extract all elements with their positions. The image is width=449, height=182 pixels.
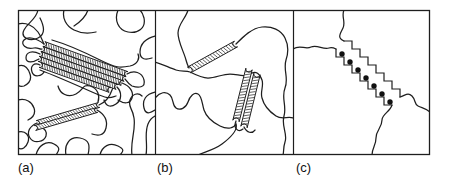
polymer-chain bbox=[178, 10, 189, 68]
polymer-chain bbox=[26, 52, 40, 62]
panel-c bbox=[293, 10, 430, 155]
polymer-chain bbox=[66, 138, 89, 155]
crystal-stem-dot bbox=[379, 91, 384, 96]
polymer-chain bbox=[36, 143, 59, 155]
polymer-chain bbox=[74, 10, 88, 26]
panel-a bbox=[18, 10, 155, 155]
polymer-chain bbox=[125, 72, 144, 87]
polymer-chain bbox=[340, 10, 344, 41]
polymer-chain bbox=[155, 62, 293, 118]
polymer-chain bbox=[116, 10, 144, 32]
crystal-stem-dot bbox=[339, 51, 344, 56]
micelle-diagram: (a) (b) (c) bbox=[0, 0, 449, 182]
polymer-chain bbox=[18, 65, 31, 86]
crystallite-bundles-b bbox=[187, 41, 260, 128]
polymer-chain bbox=[18, 132, 29, 149]
crystal-stem-dots bbox=[339, 51, 392, 104]
crystal-stem-dot bbox=[347, 59, 352, 64]
polymer-chain bbox=[129, 94, 142, 155]
polymer-chain bbox=[400, 94, 430, 112]
polymer-chain bbox=[155, 93, 236, 155]
crystal-stem-dot bbox=[355, 67, 360, 72]
polymer-chain bbox=[140, 36, 155, 59]
polymer-chain bbox=[58, 86, 99, 102]
polymer-chain bbox=[244, 127, 255, 132]
polymer-chain bbox=[372, 105, 392, 155]
panel-label-a: (a) bbox=[18, 160, 34, 175]
polymer-chain bbox=[100, 144, 123, 155]
crystal-stem-dot bbox=[387, 99, 392, 104]
panel-b bbox=[155, 10, 293, 155]
panel-label-c: (c) bbox=[296, 160, 311, 175]
panel-label-b: (b) bbox=[157, 160, 173, 175]
crystal-stem-dot bbox=[363, 75, 368, 80]
polymer-chains-b bbox=[155, 10, 293, 155]
polymer-chain bbox=[18, 99, 35, 120]
crystal-stem-dot bbox=[371, 83, 376, 88]
figure-canvas: (a) (b) (c) bbox=[0, 0, 449, 182]
polymer-chain bbox=[143, 92, 155, 113]
polymer-chain bbox=[146, 116, 155, 155]
polymer-chain bbox=[293, 46, 336, 49]
crystallite-bundles-a bbox=[34, 42, 128, 131]
